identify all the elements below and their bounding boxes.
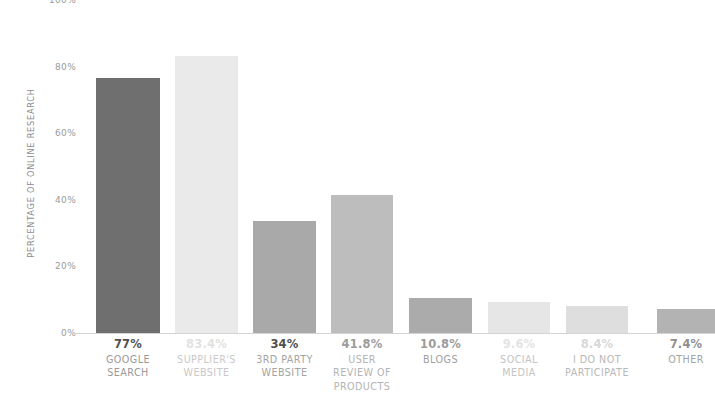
x-axis-label-4: 41.8%USERREVIEW OFPRODUCTS — [323, 338, 401, 393]
bar-category-label-4-line-2: REVIEW OF — [323, 366, 401, 379]
bar-category-label-2-line-2: WEBSITE — [167, 366, 246, 379]
y-axis-tick-0pct: 0% — [32, 328, 76, 338]
y-axis-tick-100pct: 100% — [32, 0, 76, 5]
x-axis-label-5: 10.8%BLOGS — [401, 338, 480, 366]
bar-category-label-2-line-1: SUPPLIER'S — [167, 353, 246, 366]
bar-5 — [409, 298, 472, 334]
bar-category-label-4-line-3: PRODUCTS — [323, 380, 401, 393]
bar-category-label-1-line-1: GOOGLE — [88, 353, 168, 366]
bar-2 — [175, 56, 238, 334]
bar-8 — [657, 309, 715, 334]
plot-area — [90, 0, 715, 334]
y-axis-tick-40pct: 40% — [32, 195, 76, 205]
bar-value-label-3: 34% — [245, 338, 324, 351]
bar-category-label-7-line-2: PARTICIPATE — [558, 366, 636, 379]
bar-category-label-6-line-2: MEDIA — [480, 366, 558, 379]
bar-4 — [331, 195, 393, 334]
bar-value-label-7: 8.4% — [558, 338, 636, 351]
bar-category-label-1-line-2: SEARCH — [88, 366, 168, 379]
x-axis-label-3: 34%3RD PARTYWEBSITE — [245, 338, 324, 380]
bar-value-label-2: 83.4% — [167, 338, 246, 351]
bar-chart: PERCENTAGE OF ONLINE RESEARCH 0%20%40%60… — [0, 0, 715, 418]
x-axis-label-8: 7.4%OTHER — [649, 338, 715, 366]
x-axis-tick-labels: 77%GOOGLESEARCH83.4%SUPPLIER'SWEBSITE34%… — [90, 338, 715, 418]
bar-value-label-1: 77% — [88, 338, 168, 351]
x-axis-label-7: 8.4%I DO NOTPARTICIPATE — [558, 338, 636, 380]
bar-7 — [566, 306, 628, 334]
x-axis-label-1: 77%GOOGLESEARCH — [88, 338, 168, 380]
bar-value-label-4: 41.8% — [323, 338, 401, 351]
bar-value-label-8: 7.4% — [649, 338, 715, 351]
bar-6 — [488, 302, 550, 334]
x-axis-label-6: 9.6%SOCIALMEDIA — [480, 338, 558, 380]
bar-category-label-5-line-1: BLOGS — [401, 353, 480, 366]
y-axis-tick-60pct: 60% — [32, 128, 76, 138]
bar-category-label-4-line-1: USER — [323, 353, 401, 366]
bar-category-label-3-line-1: 3RD PARTY — [245, 353, 324, 366]
bar-category-label-3-line-2: WEBSITE — [245, 366, 324, 379]
bar-3 — [253, 221, 316, 334]
bar-1 — [96, 78, 160, 334]
x-axis-baseline — [74, 333, 715, 334]
y-axis-tick-80pct: 80% — [32, 62, 76, 72]
y-axis-tick-labels: 0%20%40%60%80%100% — [24, 0, 76, 418]
bar-category-label-6-line-1: SOCIAL — [480, 353, 558, 366]
bar-category-label-7-line-1: I DO NOT — [558, 353, 636, 366]
bar-value-label-6: 9.6% — [480, 338, 558, 351]
y-axis-tick-20pct: 20% — [32, 261, 76, 271]
bar-value-label-5: 10.8% — [401, 338, 480, 351]
bar-category-label-8-line-1: OTHER — [649, 353, 715, 366]
x-axis-label-2: 83.4%SUPPLIER'SWEBSITE — [167, 338, 246, 380]
